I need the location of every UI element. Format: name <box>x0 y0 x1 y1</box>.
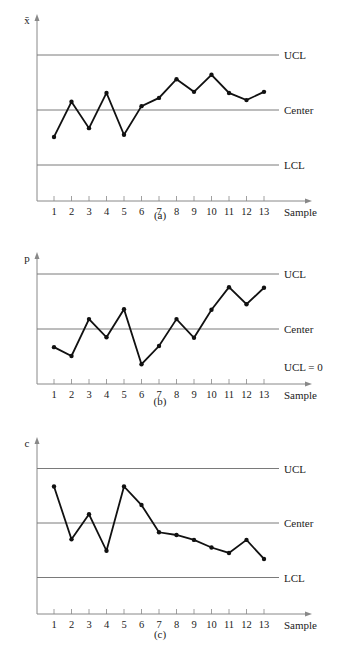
data-point <box>244 302 248 306</box>
x-tick-label: 4 <box>104 389 110 400</box>
x-tick-label: 3 <box>86 206 91 217</box>
control-chart-c: cUCLCenterLCL12345678910111213Sample(c) <box>25 437 318 641</box>
data-point <box>69 100 73 104</box>
x-tick-label: 12 <box>241 389 252 400</box>
data-point <box>262 557 266 561</box>
control-line-label: UCL = 0 <box>284 361 323 373</box>
control-charts-figure: x̄UCLCenterLCL12345678910111213Sample(a)… <box>0 0 340 667</box>
data-point <box>174 77 178 81</box>
x-tick-label: 8 <box>174 389 179 400</box>
control-line-label: UCL <box>284 268 306 280</box>
control-line-label: UCL <box>284 49 306 61</box>
x-tick-label: 12 <box>241 206 252 217</box>
x-tick-label: 13 <box>259 619 270 630</box>
x-tick-label: 6 <box>139 206 144 217</box>
y-axis-arrow-icon <box>35 14 40 21</box>
x-axis-arrow-icon <box>305 612 312 617</box>
x-tick-label: 11 <box>224 206 234 217</box>
chart-caption: (b) <box>154 395 167 408</box>
x-tick-label: 12 <box>241 619 252 630</box>
data-point <box>209 73 213 77</box>
data-point <box>227 285 231 289</box>
control-line-label: Center <box>284 517 314 529</box>
x-tick-label: 4 <box>104 206 110 217</box>
data-point <box>139 503 143 507</box>
data-point <box>87 317 91 321</box>
control-line-label: Center <box>284 323 314 335</box>
data-point <box>122 307 126 311</box>
x-tick-label: 13 <box>259 206 270 217</box>
control-line-label: Center <box>284 104 314 116</box>
x-tick-label: 2 <box>69 206 74 217</box>
data-point <box>104 335 108 339</box>
x-tick-label: 3 <box>86 619 91 630</box>
data-point <box>262 286 266 290</box>
x-tick-label: 5 <box>121 619 126 630</box>
data-point <box>122 484 126 488</box>
data-series-line <box>54 287 264 364</box>
x-tick-label: 3 <box>86 389 91 400</box>
data-point <box>87 512 91 516</box>
data-point <box>209 545 213 549</box>
data-point <box>52 345 56 349</box>
data-series-line <box>54 75 264 137</box>
x-tick-label: 4 <box>104 619 110 630</box>
control-line-label: LCL <box>284 572 305 584</box>
control-line-label: UCL <box>284 463 306 475</box>
data-point <box>157 344 161 348</box>
x-axis-label: Sample <box>284 389 317 401</box>
control-chart-a: x̄UCLCenterLCL12345678910111213Sample(a) <box>24 14 317 222</box>
data-point <box>157 96 161 100</box>
data-point <box>227 91 231 95</box>
chart-caption: (a) <box>154 209 167 222</box>
data-point <box>69 354 73 358</box>
y-axis-arrow-icon <box>35 437 40 444</box>
x-tick-label: 1 <box>51 389 56 400</box>
data-point <box>104 549 108 553</box>
x-tick-label: 10 <box>206 619 217 630</box>
x-tick-label: 11 <box>224 389 234 400</box>
x-tick-label: 2 <box>69 389 74 400</box>
data-point <box>52 135 56 139</box>
x-tick-label: 10 <box>206 389 217 400</box>
data-point <box>192 538 196 542</box>
data-point <box>174 533 178 537</box>
x-tick-label: 10 <box>206 206 217 217</box>
data-point <box>157 530 161 534</box>
data-point <box>69 537 73 541</box>
control-chart-b: pUCLCenterUCL = 012345678910111213Sample… <box>24 252 323 408</box>
x-tick-label: 1 <box>51 206 56 217</box>
data-point <box>87 126 91 130</box>
data-point <box>104 91 108 95</box>
data-point <box>244 98 248 102</box>
data-point <box>262 90 266 94</box>
x-tick-label: 9 <box>191 206 196 217</box>
data-point <box>192 336 196 340</box>
x-axis-arrow-icon <box>305 199 312 204</box>
x-tick-label: 9 <box>191 619 196 630</box>
x-tick-label: 6 <box>139 389 144 400</box>
x-tick-label: 1 <box>51 619 56 630</box>
data-point <box>52 484 56 488</box>
x-tick-label: 5 <box>121 206 126 217</box>
x-tick-label: 6 <box>139 619 144 630</box>
data-point <box>139 362 143 366</box>
x-axis-label: Sample <box>284 619 317 631</box>
data-point <box>174 317 178 321</box>
data-point <box>244 538 248 542</box>
y-axis-label: x̄ <box>24 14 30 26</box>
x-tick-label: 9 <box>191 389 196 400</box>
data-point <box>209 308 213 312</box>
chart-caption: (c) <box>154 628 167 641</box>
data-point <box>192 90 196 94</box>
y-axis-label: p <box>24 252 30 264</box>
x-axis-arrow-icon <box>305 382 312 387</box>
control-line-label: LCL <box>284 159 305 171</box>
y-axis-arrow-icon <box>35 252 40 259</box>
x-tick-label: 2 <box>69 619 74 630</box>
data-point <box>227 551 231 555</box>
y-axis-label: c <box>25 437 30 449</box>
x-tick-label: 8 <box>174 619 179 630</box>
data-point <box>122 133 126 137</box>
x-tick-label: 13 <box>259 389 270 400</box>
